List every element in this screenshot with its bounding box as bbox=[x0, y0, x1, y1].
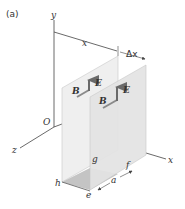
b-label-2: B bbox=[98, 96, 107, 106]
z-axis-label: z bbox=[11, 145, 17, 155]
e-label-2: E bbox=[122, 85, 130, 95]
width-label: a bbox=[111, 175, 116, 185]
panel-label: (a) bbox=[6, 9, 19, 19]
z-axis bbox=[20, 127, 54, 148]
a-arrow-right bbox=[120, 171, 132, 177]
vertex-h: h bbox=[55, 178, 61, 188]
e-label-1: E bbox=[94, 78, 102, 88]
vertex-e: e bbox=[86, 190, 91, 200]
origin-label: O bbox=[43, 117, 51, 127]
x-distance-label: x bbox=[82, 38, 87, 48]
x-axis bbox=[146, 153, 166, 159]
x-axis-back bbox=[54, 124, 62, 127]
x-axis-label: x bbox=[168, 155, 173, 165]
b-label-1: B bbox=[71, 86, 80, 96]
y-axis-label: y bbox=[50, 10, 57, 20]
delta-x-label: Δx bbox=[126, 49, 138, 59]
vertex-g: g bbox=[92, 154, 98, 164]
wave-planes-diagram: (a) y z O x x Δx E B E B g h e f a bbox=[0, 0, 185, 209]
